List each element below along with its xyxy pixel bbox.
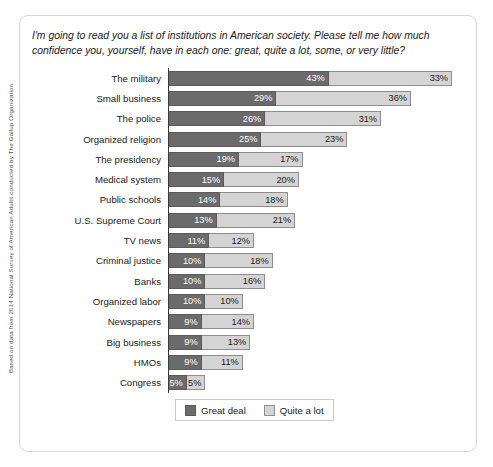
chart-row: Medical system15%20%	[31, 169, 467, 189]
category-label: Big business	[31, 337, 168, 348]
bar-segment-quite-a-lot: 10%	[205, 294, 242, 309]
category-axis-spine	[168, 68, 169, 393]
chart-row: The police26%31%	[31, 109, 467, 129]
stacked-bar: 43%33%	[168, 71, 467, 86]
bar-segment-great-deal: 9%	[168, 314, 202, 329]
bar-segment-quite-a-lot: 21%	[217, 213, 295, 228]
chart-row: Public schools14%18%	[31, 190, 467, 210]
chart-figure: Based on data from 2014 National Survey …	[0, 0, 493, 467]
stacked-bar: 5%5%	[168, 375, 467, 390]
bar-segment-quite-a-lot: 33%	[329, 71, 452, 86]
bar-segment-great-deal: 43%	[168, 71, 329, 86]
stacked-bar: 25%23%	[168, 132, 467, 147]
chart-row: Banks10%16%	[31, 271, 467, 291]
category-label: Organized religion	[31, 134, 168, 145]
chart-row: Small business29%36%	[31, 88, 467, 108]
bar-segment-great-deal: 13%	[168, 213, 217, 228]
bar-segment-quite-a-lot: 14%	[202, 314, 254, 329]
stacked-bar: 10%10%	[168, 294, 467, 309]
category-label: U.S. Supreme Court	[31, 215, 168, 226]
stacked-bar: 14%18%	[168, 192, 467, 207]
stacked-bar: 9%13%	[168, 335, 467, 350]
bar-segment-quite-a-lot: 31%	[265, 111, 381, 126]
stacked-bar: 10%18%	[168, 253, 467, 268]
bar-segment-great-deal: 9%	[168, 355, 202, 370]
category-label: Small business	[31, 93, 168, 104]
bar-segment-quite-a-lot: 18%	[220, 192, 287, 207]
stacked-bar: 15%20%	[168, 172, 467, 187]
bar-segment-quite-a-lot: 5%	[187, 375, 206, 390]
category-label: Congress	[31, 377, 168, 388]
chart-legend: Great deal Quite a lot	[175, 399, 334, 421]
stacked-bar: 9%14%	[168, 314, 467, 329]
bar-segment-quite-a-lot: 18%	[205, 253, 272, 268]
category-label: Organized labor	[31, 296, 168, 307]
stacked-bar: 11%12%	[168, 233, 467, 248]
bar-segment-great-deal: 15%	[168, 172, 224, 187]
legend-label-great-deal: Great deal	[201, 405, 246, 416]
bar-segment-quite-a-lot: 17%	[239, 152, 303, 167]
stacked-bar: 10%16%	[168, 274, 467, 289]
bar-segment-great-deal: 10%	[168, 253, 205, 268]
bar-segment-quite-a-lot: 12%	[209, 233, 254, 248]
category-label: The presidency	[31, 154, 168, 165]
chart-row: U.S. Supreme Court13%21%	[31, 210, 467, 230]
plot-area: The military43%33%Small business29%36%Th…	[31, 68, 467, 393]
bar-segment-quite-a-lot: 11%	[202, 355, 243, 370]
bar-segment-great-deal: 5%	[168, 375, 187, 390]
chart-row: TV news11%12%	[31, 230, 467, 250]
chart-row: The military43%33%	[31, 68, 467, 88]
category-label: The military	[31, 73, 168, 84]
legend-item-quite-a-lot: Quite a lot	[264, 405, 324, 416]
bar-segment-quite-a-lot: 36%	[276, 91, 411, 106]
bar-segment-great-deal: 29%	[168, 91, 276, 106]
chart-row: Congress5%5%	[31, 372, 467, 392]
bar-segment-great-deal: 25%	[168, 132, 261, 147]
category-label: HMOs	[31, 357, 168, 368]
bar-segment-great-deal: 11%	[168, 233, 209, 248]
category-label: Banks	[31, 276, 168, 287]
stacked-bar: 13%21%	[168, 213, 467, 228]
bar-segment-quite-a-lot: 16%	[205, 274, 265, 289]
category-label: Criminal justice	[31, 255, 168, 266]
chart-title: I'm going to read you a list of institut…	[32, 29, 466, 58]
bar-segment-quite-a-lot: 13%	[202, 335, 251, 350]
bar-segment-quite-a-lot: 23%	[261, 132, 347, 147]
legend-swatch-quite-a-lot	[264, 405, 275, 416]
chart-row: Big business9%13%	[31, 332, 467, 352]
bar-segment-quite-a-lot: 20%	[224, 172, 299, 187]
bar-segment-great-deal: 19%	[168, 152, 239, 167]
legend-swatch-great-deal	[185, 405, 196, 416]
chart-row: The presidency19%17%	[31, 149, 467, 169]
source-note: Based on data from 2014 National Survey …	[0, 0, 20, 467]
category-label: TV news	[31, 235, 168, 246]
chart-row: Criminal justice10%18%	[31, 251, 467, 271]
stacked-bar: 29%36%	[168, 91, 467, 106]
category-label: The police	[31, 113, 168, 124]
bar-segment-great-deal: 9%	[168, 335, 202, 350]
chart-row: Organized religion25%23%	[31, 129, 467, 149]
chart-row: HMOs9%11%	[31, 352, 467, 372]
category-label: Medical system	[31, 174, 168, 185]
bar-segment-great-deal: 10%	[168, 294, 205, 309]
legend-label-quite-a-lot: Quite a lot	[280, 405, 324, 416]
category-label: Newspapers	[31, 316, 168, 327]
chart-row: Organized labor10%10%	[31, 291, 467, 311]
legend-item-great-deal: Great deal	[185, 405, 246, 416]
category-label: Public schools	[31, 194, 168, 205]
stacked-bar: 19%17%	[168, 152, 467, 167]
bar-segment-great-deal: 26%	[168, 111, 265, 126]
stacked-bar: 26%31%	[168, 111, 467, 126]
chart-card: I'm going to read you a list of institut…	[19, 15, 477, 452]
bar-segment-great-deal: 14%	[168, 192, 220, 207]
chart-row: Newspapers9%14%	[31, 312, 467, 332]
source-note-text: Based on data from 2014 National Survey …	[7, 58, 14, 398]
stacked-bar: 9%11%	[168, 355, 467, 370]
bar-segment-great-deal: 10%	[168, 274, 205, 289]
